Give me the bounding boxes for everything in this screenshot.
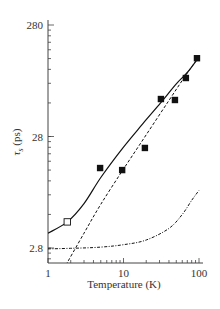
data-point-filled	[119, 167, 125, 173]
axis-ticks	[48, 25, 199, 263]
chart: 1101002.828280 Temperature (K) τs (ps)	[0, 0, 220, 309]
y-label-unit: (ps)	[10, 128, 23, 148]
x-tick-label: 1	[45, 267, 51, 279]
data-point-filled	[158, 96, 164, 102]
data-point-open	[64, 219, 70, 225]
tick-labels: 1101002.828280	[27, 19, 208, 279]
y-tick-label: 280	[27, 19, 44, 31]
fit-curve-dashed	[63, 57, 199, 270]
x-tick-label: 100	[191, 267, 208, 279]
data-point-filled	[172, 97, 178, 103]
axes	[48, 20, 203, 263]
y-tick-label: 2.8	[29, 242, 43, 254]
x-axis-label: Temperature (K)	[87, 278, 161, 291]
data-point-filled	[194, 55, 200, 61]
data-point-filled	[142, 145, 148, 151]
y-axis-label: τs (ps)	[10, 128, 25, 155]
fit-curve-solid	[48, 57, 199, 233]
data-point-filled	[183, 75, 189, 81]
fit-curves	[48, 57, 199, 270]
data-point-filled	[97, 165, 103, 171]
y-tick-label: 28	[32, 131, 44, 143]
